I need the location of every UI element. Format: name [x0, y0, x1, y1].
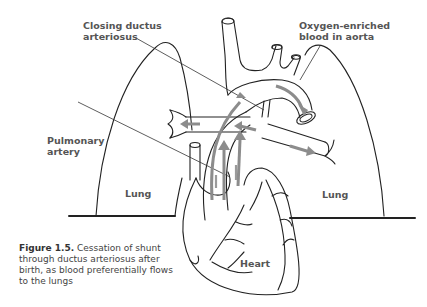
label-line: Pulmonary: [47, 135, 104, 146]
figure-caption: Figure 1.5. Cessation of shunt through d…: [19, 243, 179, 287]
pointer-ductus: [136, 38, 264, 110]
label-pulmonary-artery: Pulmonary artery: [47, 135, 104, 157]
label-line: arteriosus: [83, 31, 162, 42]
label-line: Closing ductus: [83, 20, 162, 31]
label-oxygen-enriched: Oxygen-enriched blood in aorta: [299, 20, 390, 42]
figure-number: Figure 1.5.: [19, 243, 74, 253]
label-line: blood in aorta: [299, 31, 390, 42]
label-heart: Heart: [240, 258, 270, 269]
label-line: artery: [47, 146, 104, 157]
label-lung-left: Lung: [125, 188, 151, 199]
label-lung-right: Lung: [322, 189, 348, 200]
pointer-aorta: [300, 46, 320, 80]
label-line: Oxygen-enriched: [299, 20, 390, 31]
arrow-center-left: [240, 126, 256, 130]
coronary-vessels: [210, 182, 262, 260]
label-closing-ductus: Closing ductus arteriosus: [83, 20, 162, 42]
right-pulmonary-branch: [262, 124, 325, 156]
arrow-aorta-down: [276, 86, 302, 108]
svc-vessel: [222, 18, 276, 70]
